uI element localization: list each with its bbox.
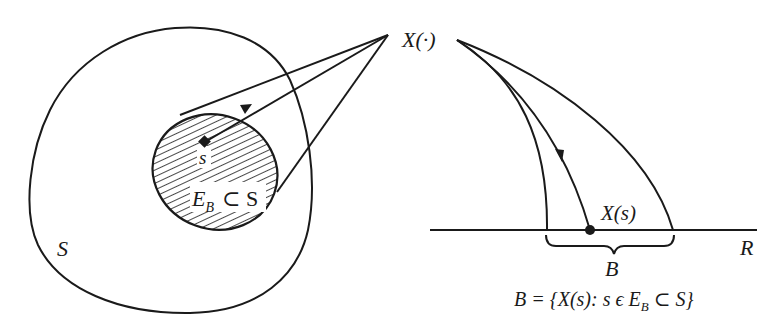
set-definition-formula: B = {X(s): s ϵ EB ⊂ S}	[514, 288, 693, 314]
real-line-label: R	[739, 235, 754, 260]
arrowhead-icon	[240, 104, 252, 114]
set-brace	[546, 235, 674, 254]
sample-point-label: s	[199, 147, 206, 168]
mapping-arrow-line	[205, 35, 388, 142]
sample-space-label: S	[57, 236, 68, 261]
image-left-curve	[457, 40, 547, 230]
random-variable-mapping-diagram: s EB⊂ S S X(·) X(s) R B B = {X(s): s ϵ E…	[0, 0, 780, 333]
event-region	[136, 97, 293, 247]
image-point	[585, 225, 595, 235]
cone-lower-line	[277, 35, 388, 192]
cone-upper-line	[180, 35, 388, 115]
image-right-curve	[457, 40, 673, 230]
borel-set-label: B	[605, 256, 618, 281]
event-label: EB⊂ S	[191, 186, 258, 215]
image-middle-curve	[457, 40, 590, 230]
random-variable-label: X(·)	[401, 27, 436, 52]
image-point-label: X(s)	[600, 201, 636, 225]
